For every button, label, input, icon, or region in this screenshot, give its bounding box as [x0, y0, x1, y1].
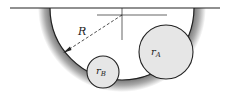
circle-a [139, 25, 193, 79]
radius-label: R [77, 25, 86, 38]
radius-arrowhead-icon [63, 47, 72, 54]
radius-dashed-line [65, 15, 122, 52]
bowl-two-circles-diagram: R rA rB [0, 0, 228, 109]
diagram-canvas: R rA rB [0, 0, 228, 109]
